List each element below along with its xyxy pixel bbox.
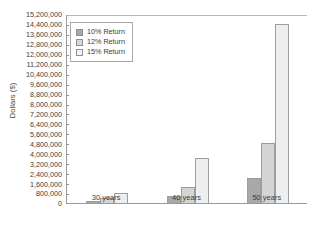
y-axis-tick-label: 2,400,000 [30,171,66,178]
y-axis-tick-label: 13,600,000 [26,31,66,38]
y-axis-tick-label: 6,400,000 [30,121,66,128]
y-axis-tick-label: 3,200,000 [30,161,66,168]
legend-item[interactable]: 12% Return [76,37,125,47]
legend-swatch-icon [76,39,83,46]
bar-group-bars [167,14,209,203]
y-axis-tick-label: 5,600,000 [30,131,66,138]
y-axis-tick-label: 4,800,000 [30,141,66,148]
bar[interactable] [275,24,289,203]
y-axis-tick-label: 15,200,000 [26,11,66,18]
y-axis-title: Dollars ($) [8,61,17,141]
y-axis-tick-label: 12,000,000 [26,51,66,58]
y-axis-tick-label: 8,000,000 [30,101,66,108]
y-axis-tick-label: 8,800,000 [30,91,66,98]
legend-item-label: 12% Return [87,38,125,45]
legend-swatch-icon [76,29,83,36]
y-axis-tick-label: 11,200,000 [27,61,66,68]
bar-chart: Dollars ($) 15,200,00014,400,00013,600,0… [0,0,313,231]
y-axis-tick-label: 9,600,000 [30,81,66,88]
legend-swatch-icon [76,49,83,56]
chart-legend: 10% Return12% Return15% Return [70,22,133,62]
y-axis-tick-label: 14,400,000 [26,21,66,28]
legend-item[interactable]: 10% Return [76,27,125,37]
legend-item-label: 15% Return [87,48,125,55]
y-axis-tick-label: 12,800,000 [26,41,66,48]
legend-item-label: 10% Return [87,28,125,35]
bar-group-bars [247,14,289,203]
y-axis-tick-label: 4,000,000 [30,151,66,158]
y-axis-tick-label: 10,400,000 [26,71,66,78]
x-axis-label: 50 years [217,193,313,202]
y-axis-tick-label: 1,600,000 [30,181,66,188]
y-axis-tick-label: 7,200,000 [30,111,66,118]
legend-item[interactable]: 15% Return [76,47,125,57]
